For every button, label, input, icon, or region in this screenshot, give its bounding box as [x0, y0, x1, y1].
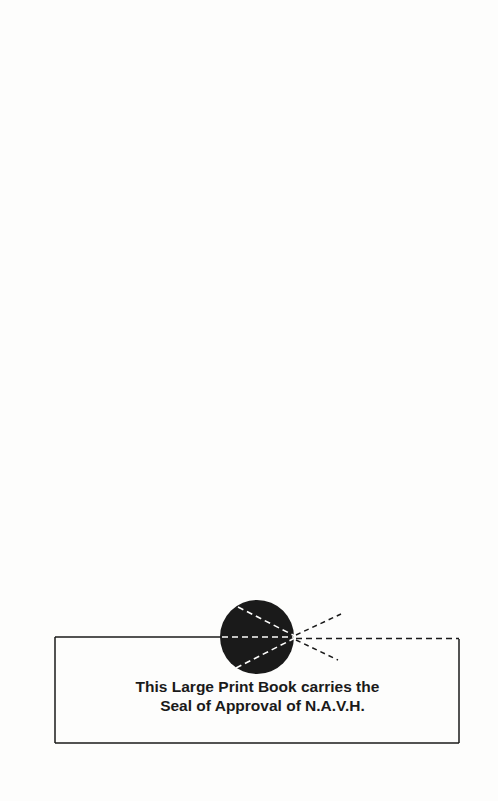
eye-seal-icon — [220, 600, 341, 674]
seal-approval-notice: This Large Print Book carries the Seal o… — [55, 677, 460, 715]
notice-line-2: Seal of Approval of N.A.V.H. — [55, 696, 460, 715]
notice-line-1: This Large Print Book carries the — [55, 677, 460, 696]
